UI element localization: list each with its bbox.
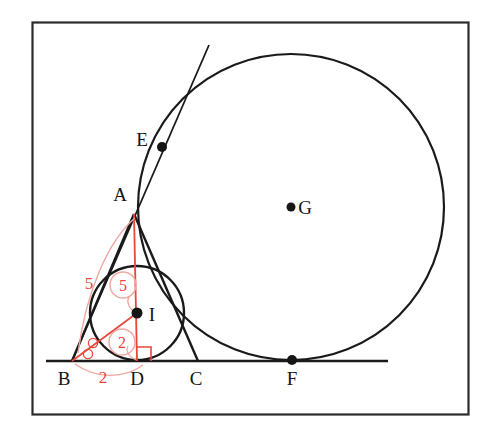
point-dot-I (132, 308, 143, 319)
equal-angle-mark-lower (83, 349, 92, 358)
geometry-canvas: A B C D E F G I 5 5 2 2 (0, 0, 501, 436)
measure-label-BD: 2 (99, 368, 108, 387)
point-label-G: G (298, 197, 312, 218)
point-label-B: B (58, 368, 71, 389)
figure-frame (33, 23, 469, 415)
measure-label-AD: 5 (119, 277, 127, 294)
point-label-D: D (130, 368, 144, 389)
point-label-E: E (136, 129, 148, 150)
measure-label-AB: 5 (85, 274, 94, 293)
point-label-F: F (287, 368, 298, 389)
point-dot-E (157, 142, 167, 152)
triangle-side-AC (134, 214, 198, 361)
geometry-figure: A B C D E F G I 5 5 2 2 (0, 0, 501, 436)
point-label-I: I (149, 304, 155, 325)
measure-label-ID: 2 (118, 334, 126, 351)
point-dot-F (287, 355, 297, 365)
point-label-C: C (190, 368, 203, 389)
point-dot-G (287, 203, 296, 212)
point-label-A: A (113, 184, 127, 205)
